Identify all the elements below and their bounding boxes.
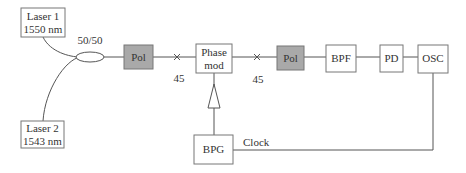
amplifier-triangle-icon <box>208 84 220 108</box>
coupler-icon <box>76 52 104 62</box>
phase-mod-line2: mod <box>204 59 224 71</box>
phase-mod-line1: Phase <box>201 46 227 58</box>
coupler-ratio: 50/50 <box>77 34 103 46</box>
pol1-label: Pol <box>131 51 146 63</box>
laser1-wavelength: 1550 nm <box>24 23 63 35</box>
clock-label: Clock <box>243 136 270 148</box>
laser2-name: Laser 2 <box>26 122 59 134</box>
fiber-laser1-coupler <box>43 37 80 57</box>
bpg-label: BPG <box>203 143 224 155</box>
laser1-name: Laser 1 <box>27 10 60 22</box>
splice-angle-2: 45 <box>253 73 265 85</box>
laser2-wavelength: 1543 nm <box>23 135 62 147</box>
splice-angle-1: 45 <box>174 72 186 84</box>
pol2-label: Pol <box>283 52 298 64</box>
osc-label: OSC <box>422 52 443 64</box>
fiber-laser2-coupler <box>43 57 80 121</box>
bpf-label: BPF <box>331 52 351 64</box>
optical-setup-diagram: Laser 1 1550 nm Laser 2 1543 nm 50/50 Po… <box>0 0 466 173</box>
pd-label: PD <box>384 52 398 64</box>
